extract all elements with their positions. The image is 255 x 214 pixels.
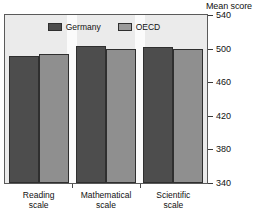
y-tick-mark: [208, 183, 213, 184]
x-axis-tick: [140, 184, 141, 188]
plot-inner: [5, 15, 207, 183]
y-tick-mark: [208, 49, 213, 50]
legend-swatch-oecd-icon: [118, 23, 132, 31]
bar-oecd-mathematical: [106, 49, 136, 183]
x-axis-label-line: scale: [123, 200, 223, 210]
x-axis-label-line: Scientific: [123, 190, 223, 200]
y-tick-label: 540: [216, 11, 231, 20]
bar-oecd-reading: [39, 54, 69, 183]
y-tick-mark: [208, 82, 213, 83]
x-axis-label-scientific: Scientificscale: [123, 190, 223, 210]
y-tick-mark: [208, 116, 213, 117]
legend-swatch-germany-icon: [48, 23, 62, 31]
y-tick-mark: [208, 15, 213, 16]
y-tick-label: 500: [216, 45, 231, 54]
legend-label-germany: Germany: [66, 22, 101, 32]
x-axis-tick: [72, 184, 73, 188]
bar-oecd-scientific: [173, 49, 203, 183]
y-tick-label: 380: [216, 145, 231, 154]
y-tick-label: 460: [216, 78, 231, 87]
chart-legend: Germany OECD: [0, 22, 208, 32]
bar-chart: Mean score Germany OECD 5405004604203803…: [0, 0, 255, 214]
bar-germany-reading: [9, 56, 39, 183]
y-tick-mark: [208, 149, 213, 150]
legend-label-oecd: OECD: [136, 22, 161, 32]
bar-germany-scientific: [143, 47, 173, 183]
legend-item-oecd: OECD: [118, 22, 161, 32]
bar-germany-mathematical: [76, 46, 106, 183]
plot-area: [4, 14, 208, 184]
y-tick-label: 340: [216, 179, 231, 188]
y-tick-label: 420: [216, 112, 231, 121]
legend-item-germany: Germany: [48, 22, 101, 32]
